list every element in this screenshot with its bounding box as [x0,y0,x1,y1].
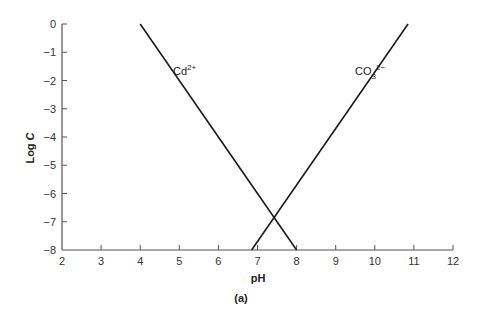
x-tick-label: 12 [447,255,459,267]
series-line-0 [140,24,296,250]
y-tick-label: −2 [43,75,56,87]
y-tick-label: 0 [50,18,56,30]
x-tick-label: 3 [98,255,104,267]
y-tick-label: −5 [43,159,56,171]
y-tick-label: −3 [43,103,56,115]
y-tick-label: −7 [43,216,56,228]
x-tick-label: 2 [59,255,65,267]
axes [62,24,453,250]
y-axis-title: Log C [24,131,36,163]
y-tick-label: −1 [43,46,56,58]
x-tick-label: 4 [137,255,143,267]
chart-canvas: 0−1−2−3−4−5−6−7−8 23456789101112 pH Log … [0,0,482,326]
x-tick-label: 8 [294,255,300,267]
x-tick-label: 7 [254,255,260,267]
y-tick-label: −4 [43,131,56,143]
y-tick-label: −8 [43,244,56,256]
x-tick-label: 5 [176,255,182,267]
x-tick-label: 9 [333,255,339,267]
series-line-1 [252,24,408,250]
y-tick-label: −6 [43,188,56,200]
figure-caption: (a) [234,292,248,304]
x-tick-label: 10 [369,255,381,267]
x-tick-label: 6 [215,255,221,267]
series-label-cd: Cd2+ [173,63,197,77]
y-ticks: 0−1−2−3−4−5−6−7−8 [43,18,67,256]
series-lines [140,24,408,250]
x-axis-title: pH [251,272,266,284]
x-ticks: 23456789101112 [59,245,459,267]
x-tick-label: 11 [408,255,419,267]
